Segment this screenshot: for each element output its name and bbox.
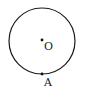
circle-diagram: O A: [0, 0, 85, 88]
center-label: O: [44, 40, 53, 53]
point-a-label: A: [43, 76, 53, 88]
point-a-dot: [41, 73, 44, 76]
center-point-dot: [41, 39, 44, 42]
